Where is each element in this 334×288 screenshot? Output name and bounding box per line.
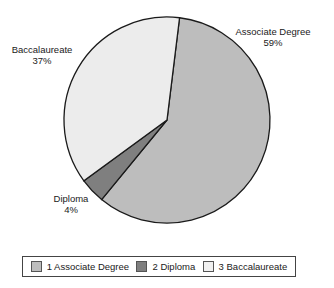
legend-item-baccalaureate: 3 Baccalaureate <box>203 261 288 272</box>
label-baccalaureate: Baccalaureate 37% <box>10 44 74 66</box>
legend-item-associate-degree: 1 Associate Degree <box>31 261 129 272</box>
legend-label: 3 Baccalaureate <box>219 261 288 272</box>
label-name: Associate Degree <box>228 26 318 37</box>
label-name: Diploma <box>46 193 96 204</box>
legend-item-diploma: 2 Diploma <box>136 261 195 272</box>
label-associate-degree: Associate Degree 59% <box>228 26 318 48</box>
label-diploma: Diploma 4% <box>46 193 96 215</box>
label-name: Baccalaureate <box>10 44 74 55</box>
label-pct: 4% <box>46 204 96 215</box>
legend-label: 2 Diploma <box>152 261 195 272</box>
swatch-associate-degree <box>31 261 42 272</box>
legend-label: 1 Associate Degree <box>47 261 129 272</box>
swatch-baccalaureate <box>203 261 214 272</box>
label-pct: 37% <box>10 55 74 66</box>
swatch-diploma <box>136 261 147 272</box>
legend: 1 Associate Degree 2 Diploma 3 Baccalaur… <box>22 256 296 277</box>
label-pct: 59% <box>228 37 318 48</box>
